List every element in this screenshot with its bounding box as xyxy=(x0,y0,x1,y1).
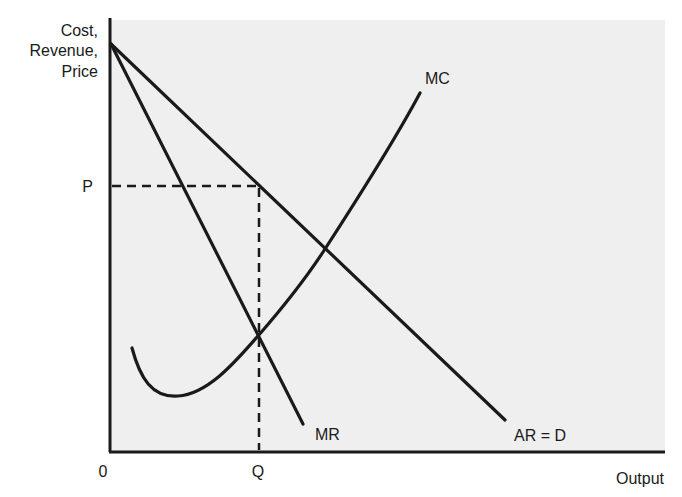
mr-label: MR xyxy=(315,426,340,443)
plot-area xyxy=(110,20,665,452)
ar-label: AR = D xyxy=(514,427,566,444)
monopoly-diagram: Cost, Revenue, Price P Q 0 Output MC MR … xyxy=(0,0,682,497)
origin-label: 0 xyxy=(99,463,108,480)
price-label: P xyxy=(82,178,93,195)
quantity-label: Q xyxy=(252,463,264,480)
mc-label: MC xyxy=(425,70,450,87)
y-axis-label-line-1: Cost, xyxy=(61,22,98,39)
x-axis-label: Output xyxy=(616,470,665,487)
y-axis-label-line-3: Price xyxy=(62,63,99,80)
y-axis-label-line-2: Revenue, xyxy=(30,42,99,59)
